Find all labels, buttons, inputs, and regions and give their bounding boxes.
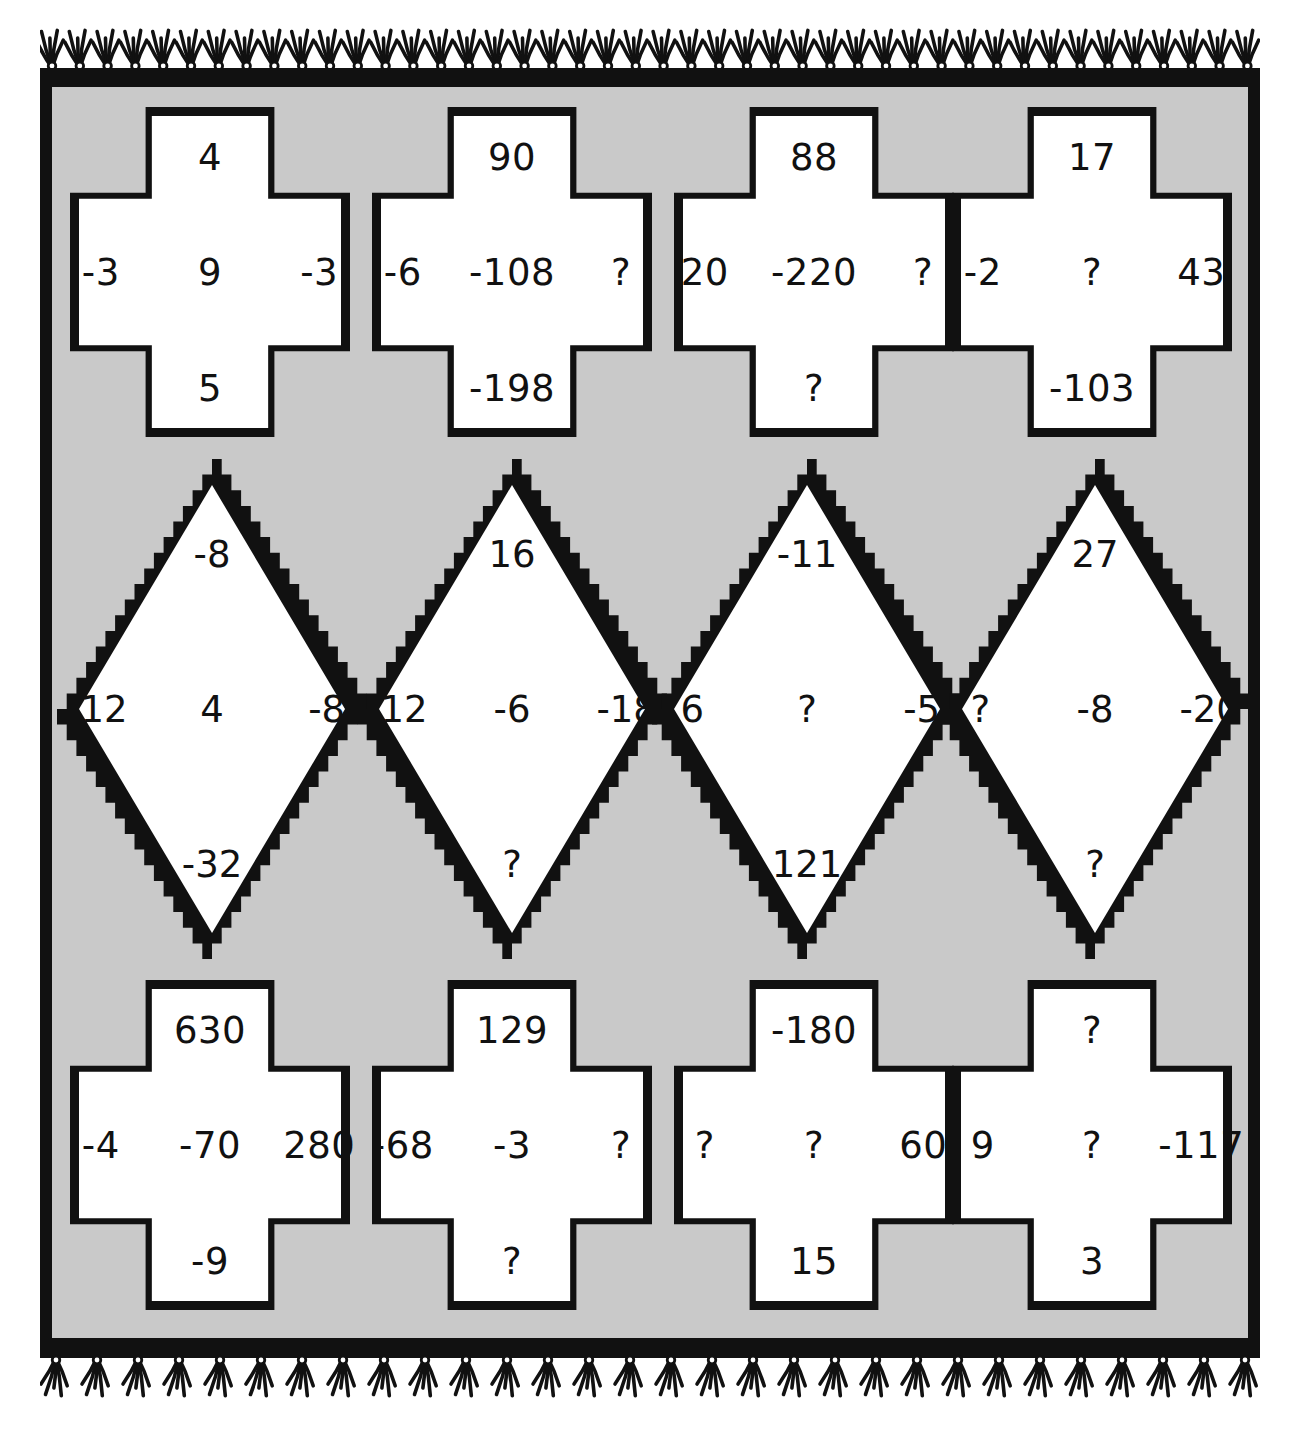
diamond-cell[interactable]: 27 ? -8 -20 ? <box>940 459 1250 959</box>
cell-value-top: -11 <box>777 533 837 576</box>
cell-value-bottom: -9 <box>191 1239 229 1282</box>
cell-value-top: ? <box>1082 1008 1102 1051</box>
cell-value-top: 17 <box>1068 135 1116 178</box>
rug-interior: 4 -3 9 -3 5 90 -6 -108 ? -198 88 20 -2 <box>52 87 1248 1338</box>
cell-value-left: -3 <box>82 251 120 294</box>
cell-value-bottom: ? <box>1085 843 1105 886</box>
cross-cell[interactable]: -180 ? ? 60 15 <box>674 980 954 1310</box>
cell-value-bottom: -103 <box>1049 366 1135 409</box>
cell-value-top: 90 <box>488 135 536 178</box>
puzzle-rug-illustration: 4 -3 9 -3 5 90 -6 -108 ? -198 88 20 -2 <box>0 0 1300 1429</box>
cell-value-left: ? <box>695 1124 715 1167</box>
bottom-fringe-decoration <box>40 1350 1260 1405</box>
cell-value-top: 16 <box>488 533 535 576</box>
cell-value-bottom: ? <box>502 843 522 886</box>
cell-value-center: ? <box>1082 1124 1102 1167</box>
cell-value-center: -8 <box>1077 688 1114 731</box>
cell-value-right: -8 <box>308 688 345 731</box>
cell-value-left: -12 <box>367 688 427 731</box>
cross-cell[interactable]: 129 -68 -3 ? ? <box>372 980 652 1310</box>
cell-value-center: -108 <box>469 251 555 294</box>
cell-value-top: 129 <box>476 1008 548 1051</box>
cell-value-center: ? <box>804 1124 824 1167</box>
cell-value-right: -20 <box>1179 688 1239 731</box>
cell-value-right: ? <box>913 251 933 294</box>
cell-value-right: -18 <box>596 688 656 731</box>
cell-value-right: ? <box>611 251 631 294</box>
rug-frame: 4 -3 9 -3 5 90 -6 -108 ? -198 88 20 -2 <box>40 75 1260 1350</box>
cell-value-center: -3 <box>493 1124 531 1167</box>
cell-value-center: 9 <box>198 251 222 294</box>
cross-cell[interactable]: 88 20 -220 ? ? <box>674 107 954 437</box>
cell-value-bottom: 15 <box>790 1239 838 1282</box>
cell-value-center: ? <box>1082 251 1102 294</box>
cell-value-right: ? <box>611 1124 631 1167</box>
cell-value-top: 4 <box>198 135 222 178</box>
cell-value-top: 27 <box>1071 533 1118 576</box>
cell-value-top: 630 <box>174 1008 246 1051</box>
cell-value-bottom: 5 <box>198 366 222 409</box>
cell-value-center: -70 <box>179 1124 241 1167</box>
cell-value-top: -8 <box>194 533 231 576</box>
cross-cell[interactable]: 90 -6 -108 ? -198 <box>372 107 652 437</box>
cell-value-center: ? <box>797 688 817 731</box>
cross-cell[interactable]: 17 -2 ? 43 -103 <box>952 107 1232 437</box>
cell-value-top: 88 <box>790 135 838 178</box>
cell-value-right: -3 <box>300 251 338 294</box>
cell-value-left: -4 <box>82 1124 120 1167</box>
cell-value-bottom: -198 <box>469 366 555 409</box>
cell-value-right: 60 <box>899 1124 947 1167</box>
cell-value-left: -6 <box>384 251 422 294</box>
cell-value-left: ? <box>970 688 990 731</box>
cell-value-center: -220 <box>771 251 857 294</box>
cell-value-center: -6 <box>494 688 531 731</box>
cell-value-left: 20 <box>681 251 729 294</box>
cell-value-bottom: 3 <box>1080 1239 1104 1282</box>
diamond-cell[interactable]: 16 -12 -6 -18 ? <box>357 459 667 959</box>
cell-value-bottom: ? <box>804 366 824 409</box>
cell-value-center: 4 <box>200 688 224 731</box>
cross-cell[interactable]: ? 9 ? -117 3 <box>952 980 1232 1310</box>
cell-value-right: 43 <box>1177 251 1225 294</box>
cell-value-bottom: 121 <box>772 843 843 886</box>
top-fringe-decoration <box>40 20 1260 75</box>
cell-value-right: -117 <box>1158 1124 1244 1167</box>
cross-cell[interactable]: 4 -3 9 -3 5 <box>70 107 350 437</box>
cell-value-left: 6 <box>681 688 705 731</box>
diamond-cell[interactable]: -8 -12 4 -8 -32 <box>57 459 367 959</box>
cell-value-left: -68 <box>372 1124 434 1167</box>
cell-value-left: -2 <box>964 251 1002 294</box>
cell-value-top: -180 <box>771 1008 857 1051</box>
cell-value-left: -12 <box>67 688 127 731</box>
cell-value-right: -5 <box>903 688 940 731</box>
cell-value-left: 9 <box>971 1124 995 1167</box>
cross-cell[interactable]: 630 -4 -70 280 -9 <box>70 980 350 1310</box>
cell-value-right: 280 <box>283 1124 355 1167</box>
diamond-cell[interactable]: -11 6 ? -5 121 <box>652 459 962 959</box>
cell-value-bottom: ? <box>502 1239 522 1282</box>
cell-value-bottom: -32 <box>182 843 242 886</box>
